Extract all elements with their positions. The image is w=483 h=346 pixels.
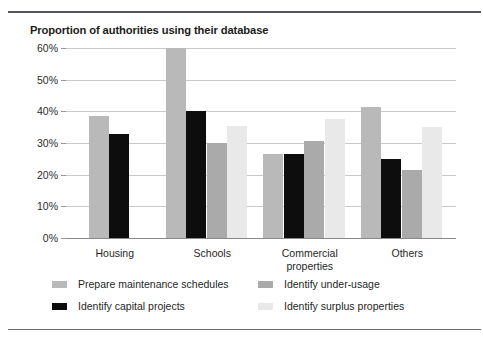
bar bbox=[325, 119, 345, 238]
top-divider-rule bbox=[8, 11, 481, 13]
chart-legend: Prepare maintenance schedulesIdentify ca… bbox=[52, 278, 462, 322]
bar-group: Commercialproperties bbox=[261, 48, 359, 238]
legend-swatch bbox=[52, 281, 67, 288]
legend-swatch bbox=[258, 281, 273, 288]
bar bbox=[227, 126, 247, 238]
y-axis-tick-label: 30% bbox=[37, 137, 58, 149]
bar bbox=[381, 159, 401, 238]
bar bbox=[422, 127, 442, 238]
bar-group: Others bbox=[359, 48, 457, 238]
legend-label: Identify surplus properties bbox=[284, 300, 404, 312]
bar bbox=[89, 116, 109, 238]
y-axis-tick-label: 0% bbox=[43, 232, 58, 244]
y-axis-tick-label: 20% bbox=[37, 169, 58, 181]
bottom-divider-rule bbox=[8, 329, 481, 330]
bar bbox=[166, 48, 186, 238]
bar bbox=[263, 154, 283, 238]
bar bbox=[109, 134, 129, 239]
y-axis-tick-label: 50% bbox=[37, 74, 58, 86]
bar bbox=[304, 141, 324, 238]
bar-group: Schools bbox=[164, 48, 262, 238]
bar bbox=[402, 170, 422, 238]
legend-label: Prepare maintenance schedules bbox=[78, 278, 229, 290]
legend-swatch bbox=[52, 303, 67, 310]
x-axis-tick-label: Schools bbox=[194, 247, 231, 260]
y-axis-tick-label: 60% bbox=[37, 42, 58, 54]
legend-item[interactable]: Prepare maintenance schedules bbox=[52, 278, 229, 290]
legend-item[interactable]: Identify capital projects bbox=[52, 300, 185, 312]
x-axis-tick-label: Others bbox=[391, 247, 423, 260]
plot-area: 0%10%20%30%40%50%60%HousingSchoolsCommer… bbox=[66, 48, 456, 238]
legend-item[interactable]: Identify surplus properties bbox=[258, 300, 404, 312]
y-axis-tickmark bbox=[61, 238, 66, 239]
bar bbox=[186, 111, 206, 238]
bar bbox=[361, 107, 381, 238]
bar-group: Housing bbox=[66, 48, 164, 238]
y-axis-tick-label: 40% bbox=[37, 105, 58, 117]
y-axis-tick-label: 10% bbox=[37, 200, 58, 212]
bar bbox=[207, 143, 227, 238]
legend-label: Identify capital projects bbox=[78, 300, 185, 312]
legend-swatch bbox=[258, 303, 273, 310]
chart-figure: Proportion of authorities using their da… bbox=[0, 0, 483, 346]
legend-item[interactable]: Identify under-usage bbox=[258, 278, 380, 290]
x-axis-tick-label: Commercialproperties bbox=[282, 247, 338, 272]
chart-title: Proportion of authorities using their da… bbox=[30, 24, 268, 36]
bar bbox=[284, 154, 304, 238]
x-axis-tick-label: Housing bbox=[95, 247, 134, 260]
legend-label: Identify under-usage bbox=[284, 278, 380, 290]
